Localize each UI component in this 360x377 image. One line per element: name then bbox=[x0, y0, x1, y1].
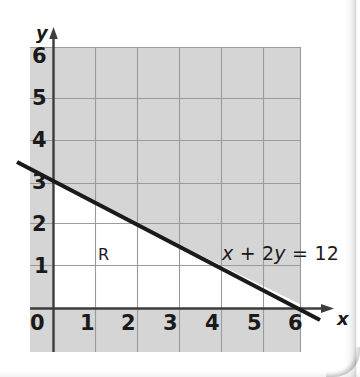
equation-label: x + 2y = 12 bbox=[222, 244, 339, 263]
x-tick-1: 1 bbox=[80, 313, 95, 334]
equation-equals: = bbox=[286, 242, 315, 264]
y-tick-4: 4 bbox=[32, 130, 47, 151]
coordinate-graph: 6 5 4 3 2 1 0 1 2 3 4 5 6 y x R x + 2y =… bbox=[0, 0, 360, 377]
x-tick-0: 0 bbox=[30, 313, 45, 334]
y-axis-label: y bbox=[36, 24, 48, 42]
y-tick-5: 5 bbox=[32, 88, 47, 109]
graph-canvas bbox=[0, 0, 360, 377]
y-axis-arrowhead bbox=[49, 27, 58, 39]
region-label-R: R bbox=[98, 247, 109, 263]
x-tick-2: 2 bbox=[121, 313, 136, 334]
x-tick-4: 4 bbox=[205, 313, 220, 334]
equation-coefficient: 2 bbox=[262, 242, 274, 264]
x-tick-3: 3 bbox=[163, 313, 178, 334]
x-axis-label: x bbox=[337, 310, 349, 328]
figure-page: 6 5 4 3 2 1 0 1 2 3 4 5 6 y x R x + 2y =… bbox=[0, 0, 360, 377]
x-tick-5: 5 bbox=[247, 313, 262, 334]
equation-value: 12 bbox=[314, 242, 339, 264]
x-axis-arrowhead bbox=[321, 304, 334, 313]
y-tick-3: 3 bbox=[32, 172, 47, 193]
y-tick-6: 6 bbox=[32, 46, 47, 67]
y-tick-2: 2 bbox=[32, 214, 47, 235]
x-tick-6: 6 bbox=[288, 313, 303, 334]
equation-x-var: x bbox=[222, 242, 233, 264]
y-tick-1: 1 bbox=[34, 256, 49, 277]
equation-y-var: y bbox=[274, 242, 285, 264]
equation-plus: + bbox=[233, 242, 262, 264]
